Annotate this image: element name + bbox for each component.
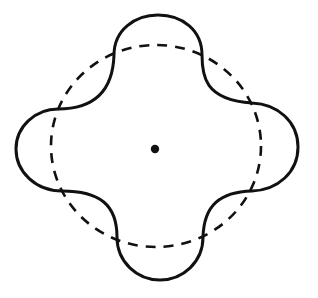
diagram-canvas (0, 0, 318, 298)
center-point (151, 145, 159, 153)
